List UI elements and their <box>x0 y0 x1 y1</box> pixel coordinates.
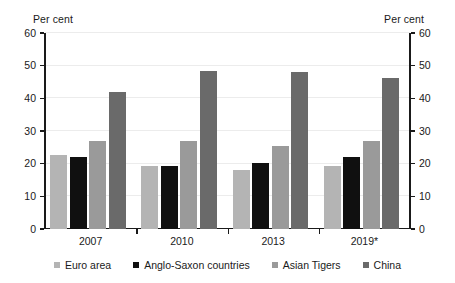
bar <box>141 166 158 229</box>
legend-item[interactable]: Anglo-Saxon countries <box>133 259 250 271</box>
category-label: 2010 <box>136 235 227 247</box>
y-tick-left <box>40 32 44 33</box>
category-label: 2013 <box>228 235 319 247</box>
bar <box>109 92 126 229</box>
legend-swatch-icon <box>272 262 278 268</box>
bar <box>70 157 87 229</box>
y-tick-label-right: 10 <box>419 191 431 202</box>
legend-item[interactable]: Asian Tigers <box>272 259 341 271</box>
y-tick-label-right: 0 <box>419 224 425 235</box>
chart-legend: Euro areaAnglo-Saxon countriesAsian Tige… <box>0 259 455 271</box>
y-tick-label-right: 40 <box>419 93 431 104</box>
legend-swatch-icon <box>133 262 139 268</box>
y-tick-right <box>411 196 415 197</box>
y-tick-label-left: 0 <box>30 224 36 235</box>
y-tick-label-left: 10 <box>24 191 36 202</box>
y-tick-left <box>40 130 44 131</box>
legend-swatch-icon <box>54 262 60 268</box>
legend-label: Anglo-Saxon countries <box>144 259 250 271</box>
bar <box>89 141 106 229</box>
bar <box>161 166 178 229</box>
bar <box>252 163 269 229</box>
bar <box>343 157 360 229</box>
legend-item[interactable]: Euro area <box>54 259 111 271</box>
y-tick-label-right: 50 <box>419 60 431 71</box>
legend-item[interactable]: China <box>363 259 401 271</box>
bar <box>382 78 399 229</box>
y-tick-left <box>40 196 44 197</box>
y-tick-left <box>40 65 44 66</box>
y-tick-right <box>411 228 415 229</box>
bar <box>291 72 308 229</box>
legend-swatch-icon <box>363 262 369 268</box>
y-tick-label-left: 20 <box>24 158 36 169</box>
x-tick <box>319 229 320 234</box>
bar <box>50 155 67 229</box>
y-tick-right <box>411 32 415 33</box>
bar-series-container <box>45 33 410 229</box>
left-axis-title: Per cent <box>33 13 73 25</box>
bar-group <box>141 33 217 229</box>
category-label: 2019* <box>319 235 410 247</box>
right-axis-title: Per cent <box>384 13 424 25</box>
bar-group <box>50 33 126 229</box>
y-tick-label-right: 20 <box>419 158 431 169</box>
bar <box>363 141 380 229</box>
bar-group <box>324 33 400 229</box>
legend-label: China <box>374 259 401 271</box>
y-tick-left <box>40 163 44 164</box>
category-label: 2007 <box>45 235 136 247</box>
y-tick-left <box>40 228 44 229</box>
bar-chart: Per cent Per cent 0010102020303040405050… <box>0 0 455 283</box>
bar-group <box>233 33 309 229</box>
x-tick <box>228 229 229 234</box>
y-tick-right <box>411 98 415 99</box>
y-tick-right <box>411 130 415 131</box>
y-tick-label-left: 60 <box>24 28 36 39</box>
y-tick-label-left: 40 <box>24 93 36 104</box>
bar <box>272 146 289 229</box>
y-tick-label-right: 60 <box>419 28 431 39</box>
bar <box>200 71 217 229</box>
bar <box>324 166 341 229</box>
y-tick-right <box>411 163 415 164</box>
x-tick <box>136 229 137 234</box>
y-tick-right <box>411 65 415 66</box>
legend-label: Asian Tigers <box>283 259 341 271</box>
legend-label: Euro area <box>65 259 111 271</box>
bar <box>180 141 197 229</box>
y-tick-label-left: 30 <box>24 126 36 137</box>
y-tick-left <box>40 98 44 99</box>
bar <box>233 170 250 229</box>
y-tick-label-right: 30 <box>419 126 431 137</box>
plot-area: 00101020203030404050506060 <box>45 33 410 229</box>
y-tick-label-left: 50 <box>24 60 36 71</box>
